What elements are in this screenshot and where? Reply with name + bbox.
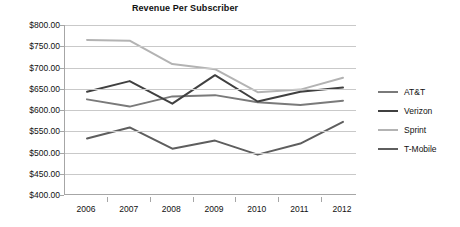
gridline bbox=[65, 174, 356, 175]
gridline bbox=[65, 110, 356, 111]
y-axis-tick-mark bbox=[60, 25, 64, 26]
y-axis-tick-mark bbox=[60, 174, 64, 175]
legend-swatch-icon bbox=[378, 110, 398, 112]
y-axis-tick-label: $400.00 bbox=[2, 190, 60, 200]
y-axis-tick-mark bbox=[60, 46, 64, 47]
legend-label: Verizon bbox=[404, 106, 432, 116]
y-axis-tick-label: $450.00 bbox=[2, 169, 60, 179]
y-axis-tick-mark bbox=[60, 68, 64, 69]
x-axis: 2006200720082009201020112012 bbox=[64, 197, 356, 219]
x-axis-tick-mark bbox=[150, 197, 151, 202]
legend-swatch-icon bbox=[378, 148, 398, 150]
legend-item-sprint[interactable]: Sprint bbox=[378, 120, 460, 139]
y-axis-tick-label: $600.00 bbox=[2, 105, 60, 115]
y-axis: $400.00$450.00$500.00$550.00$600.00$650.… bbox=[0, 25, 60, 195]
legend-swatch-icon bbox=[378, 91, 398, 93]
y-axis-tick-label: $550.00 bbox=[2, 126, 60, 136]
y-axis-tick-label: $500.00 bbox=[2, 148, 60, 158]
x-axis-tick-label: 2010 bbox=[247, 204, 266, 214]
y-axis-tick-mark bbox=[60, 131, 64, 132]
y-axis-tick-mark bbox=[60, 89, 64, 90]
legend-swatch-icon bbox=[378, 129, 398, 131]
series-line-at-t bbox=[87, 95, 343, 106]
x-axis-tick-mark bbox=[107, 197, 108, 202]
x-axis-tick-label: 2009 bbox=[205, 204, 224, 214]
series-line-t-mobile bbox=[87, 122, 343, 155]
y-axis-tick-mark bbox=[60, 110, 64, 111]
x-axis-tick-mark bbox=[193, 197, 194, 202]
x-axis-tick-mark bbox=[278, 197, 279, 202]
x-axis-tick-label: 2008 bbox=[162, 204, 181, 214]
y-axis-tick-mark bbox=[60, 195, 64, 196]
x-axis-tick-label: 2007 bbox=[119, 204, 138, 214]
gridline bbox=[65, 89, 356, 90]
y-axis-tick-mark bbox=[60, 153, 64, 154]
x-axis-tick-label: 2006 bbox=[77, 204, 96, 214]
chart-container: Revenue Per Subscriber $400.00$450.00$50… bbox=[0, 0, 460, 227]
legend-label: AT&T bbox=[404, 87, 425, 97]
legend-label: Sprint bbox=[404, 125, 426, 135]
plot-area bbox=[64, 25, 356, 195]
x-axis-tick-mark bbox=[235, 197, 236, 202]
x-axis-tick-label: 2011 bbox=[290, 204, 308, 214]
x-axis-tick-mark bbox=[321, 197, 322, 202]
y-axis-tick-label: $800.00 bbox=[2, 20, 60, 30]
y-axis-tick-label: $650.00 bbox=[2, 84, 60, 94]
gridline bbox=[65, 68, 356, 69]
chart-legend: AT&TVerizonSprintT-Mobile bbox=[378, 82, 460, 158]
legend-item-t-mobile[interactable]: T-Mobile bbox=[378, 139, 460, 158]
series-line-sprint bbox=[87, 40, 343, 92]
gridline bbox=[65, 153, 356, 154]
gridline bbox=[65, 46, 356, 47]
x-axis-tick-label: 2012 bbox=[333, 204, 352, 214]
legend-item-verizon[interactable]: Verizon bbox=[378, 101, 460, 120]
legend-label: T-Mobile bbox=[404, 144, 437, 154]
y-axis-tick-label: $750.00 bbox=[2, 41, 60, 51]
gridline bbox=[65, 25, 356, 26]
legend-item-at-t[interactable]: AT&T bbox=[378, 82, 460, 101]
gridline bbox=[65, 131, 356, 132]
y-axis-tick-label: $700.00 bbox=[2, 63, 60, 73]
chart-title: Revenue Per Subscriber bbox=[0, 3, 370, 13]
